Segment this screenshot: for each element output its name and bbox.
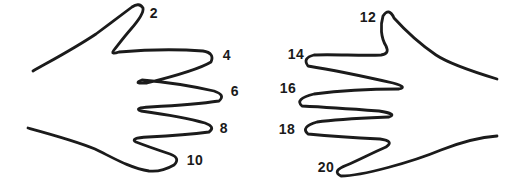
right-hand-outline: [300, 12, 497, 176]
finger-label-left-middle: 6: [231, 84, 239, 98]
finger-label-right-index: 14: [288, 47, 305, 61]
finger-label-right-thumb: 12: [360, 10, 377, 24]
hands-illustration: [0, 0, 529, 190]
finger-label-right-pinky: 20: [318, 160, 335, 174]
counting-by-twos-hands-figure: 2 4 6 8 10 12 14 16 18 20: [0, 0, 529, 190]
finger-label-left-pinky: 10: [187, 153, 204, 167]
finger-label-right-middle: 16: [280, 81, 297, 95]
finger-label-right-ring: 18: [279, 122, 296, 136]
left-hand-outline: [28, 5, 222, 171]
finger-label-left-index: 4: [223, 48, 231, 62]
finger-label-left-thumb: 2: [150, 6, 158, 20]
finger-label-left-ring: 8: [220, 121, 228, 135]
